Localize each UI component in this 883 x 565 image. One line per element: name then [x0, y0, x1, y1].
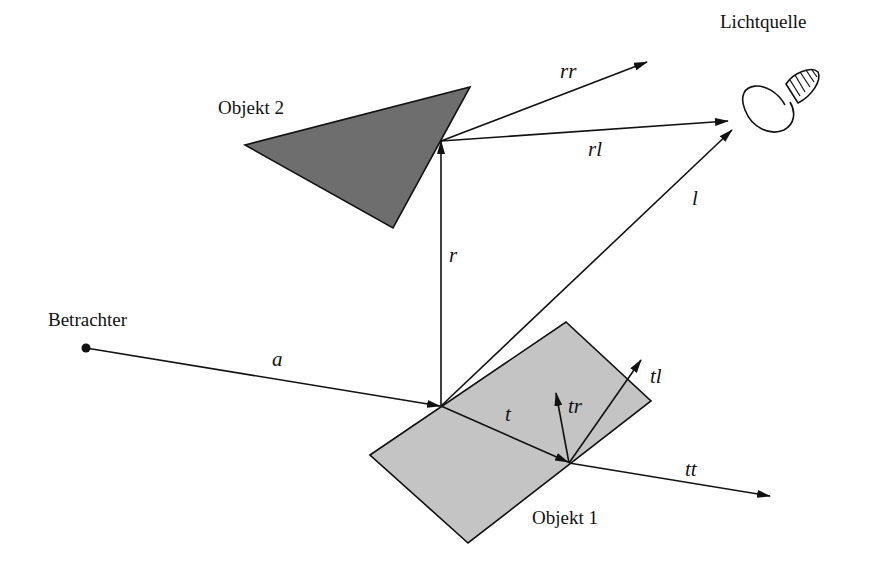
label-vector-tl: tl: [650, 364, 662, 388]
label-vector-rl: rl: [588, 137, 602, 161]
label-object2: Objekt 2: [218, 97, 284, 118]
label-vector-l: l: [692, 186, 698, 210]
label-vector-r: r: [449, 243, 458, 267]
label-viewer: Betrachter: [48, 309, 128, 330]
label-vector-tr: tr: [568, 394, 583, 418]
label-vector-rr: rr: [560, 59, 577, 83]
label-vector-tt: tt: [685, 457, 698, 481]
ray-tt: [569, 463, 770, 496]
label-object1: Objekt 1: [532, 507, 598, 528]
ray-tracing-diagram: Lichtquelle Objekt 2 Betrachter Objekt 1…: [0, 0, 883, 565]
label-vector-a: a: [272, 347, 283, 371]
label-light-source: Lichtquelle: [720, 11, 807, 32]
light-bulb-icon: [743, 70, 819, 132]
ray-a: [86, 348, 440, 406]
object1-plane: [370, 322, 651, 543]
